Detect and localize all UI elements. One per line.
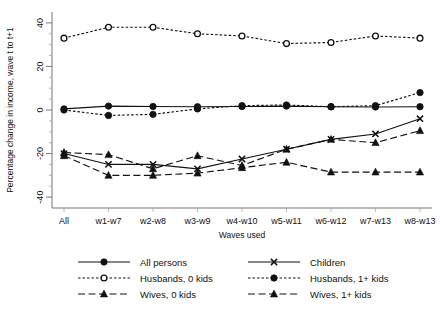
data-point-marker [283, 102, 289, 108]
y-tick-label: 0 [35, 107, 45, 112]
data-point-marker [150, 103, 156, 109]
x-tick-label: w5-w11 [270, 216, 301, 226]
y-axis-title: Percentage change in income, wave t to t… [5, 27, 15, 193]
legend-entry[interactable]: Children [248, 257, 345, 268]
legend-entry[interactable]: Wives, 0 kids [78, 289, 196, 300]
y-tick-label: -20 [35, 147, 45, 160]
legend-entry[interactable]: Husbands, 1+ kids [248, 273, 389, 284]
x-tick-label: w2-w8 [139, 216, 166, 226]
y-tick-label: 40 [35, 18, 45, 28]
data-point-marker [328, 40, 334, 46]
data-point-marker [105, 112, 111, 118]
data-point-marker [239, 102, 245, 108]
legend-label: Wives, 1+ kids [310, 289, 372, 300]
data-point-marker [150, 111, 156, 117]
y-tick-label: 20 [35, 61, 45, 71]
data-point-marker [239, 33, 245, 39]
x-tick-label: w8-w13 [403, 216, 435, 226]
data-point-marker [417, 35, 423, 41]
data-point-marker [61, 107, 67, 113]
data-point-marker [373, 33, 379, 39]
line-chart: -40-2002040 Allw1-w7w2-w8w3-w9w4-w10w5-w… [0, 0, 440, 312]
data-point-marker [61, 35, 67, 41]
data-point-marker [106, 24, 112, 30]
data-point-marker [417, 89, 423, 95]
x-tick-label: w6-w12 [314, 216, 346, 226]
data-point-marker [101, 275, 107, 281]
legend-entry[interactable]: Wives, 1+ kids [248, 289, 372, 300]
data-point-marker [271, 275, 277, 281]
x-axis-title: Waves used [219, 230, 266, 240]
legend-label: All persons [140, 257, 187, 268]
legend-label: Husbands, 1+ kids [310, 273, 389, 284]
data-point-marker [150, 24, 156, 30]
data-point-marker [417, 104, 423, 110]
legend-entry[interactable]: Husbands, 0 kids [78, 273, 213, 284]
legend-label: Children [310, 257, 345, 268]
data-point-marker [372, 102, 378, 108]
x-axis-ticks: Allw1-w7w2-w8w3-w9w4-w10w5-w11w6-w12w7-w… [59, 208, 436, 226]
x-tick-label: All [59, 216, 69, 226]
x-tick-label: w3-w9 [183, 216, 210, 226]
data-point-marker [328, 104, 334, 110]
legend-entry[interactable]: All persons [78, 257, 187, 268]
data-point-marker [101, 259, 107, 265]
data-point-marker [195, 31, 201, 37]
legend-label: Wives, 0 kids [140, 289, 196, 300]
x-tick-label: w7-w13 [359, 216, 391, 226]
x-tick-label: w1-w7 [94, 216, 121, 226]
data-point-marker [284, 41, 290, 47]
y-axis-ticks: -40-2002040 [35, 18, 52, 204]
data-point-marker [105, 103, 111, 109]
chart-legend: All personsChildrenHusbands, 0 kidsHusba… [60, 250, 430, 306]
data-point-marker [194, 106, 200, 112]
legend-label: Husbands, 0 kids [140, 273, 213, 284]
chart-figure: -40-2002040 Allw1-w7w2-w8w3-w9w4-w10w5-w… [0, 0, 440, 312]
x-tick-label: w4-w10 [225, 216, 257, 226]
y-tick-label: -40 [35, 191, 45, 204]
